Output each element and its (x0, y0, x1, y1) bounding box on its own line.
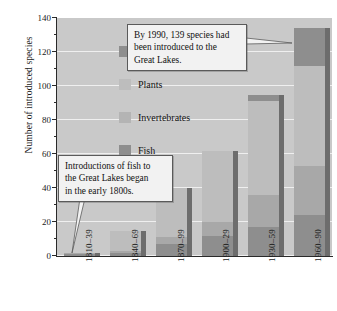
callout-fish-line-2: the Great Lakes began (65, 172, 167, 184)
chart-figure: Number of introduced species 02040608010… (0, 0, 337, 311)
callout-fish: Introductions of fish to the Great Lakes… (58, 155, 173, 202)
callout-fish-line-3: in the early 1800s. (65, 185, 167, 197)
callout-fish-line-1: Introductions of fish to (65, 160, 167, 172)
